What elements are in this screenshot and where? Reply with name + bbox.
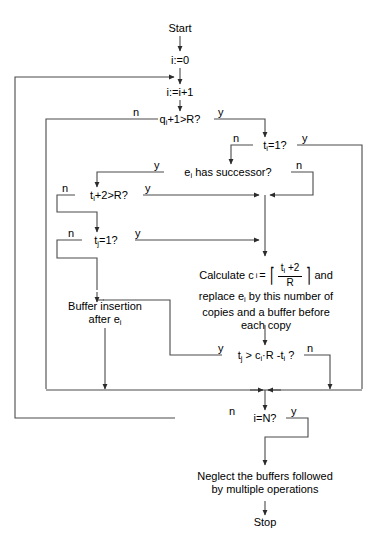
node-decision-successor: ei has successor? — [167, 166, 289, 182]
neglect-line-1: Neglect the buffers followed — [170, 470, 360, 483]
branch-d1-no: n — [133, 106, 139, 118]
edge-d2-no — [231, 145, 253, 164]
calc-line-4: each copy — [176, 319, 356, 332]
node-decision-q: qi+1>R? — [151, 113, 209, 129]
node-init: i:=0 — [160, 54, 200, 66]
calc-denominator: R — [278, 277, 303, 288]
branch-d4-no: n — [62, 182, 68, 194]
branch-d6-no: n — [307, 342, 313, 354]
branch-d3-no: n — [296, 159, 302, 171]
calc-fraction: ti +2 R — [278, 262, 303, 288]
node-decision-tj: tj=1? — [84, 234, 128, 250]
node-neglect-buffers: Neglect the buffers followed by multiple… — [170, 470, 360, 496]
calc-formula-line: Calculate ci = ⌈ ti +2 R ⌉ and — [176, 262, 356, 288]
node-stop: Stop — [245, 516, 285, 528]
flowchart-canvas: Start i:=0 i:=i+1 qi+1>R? n y ti=1? n y … — [0, 0, 378, 536]
branch-d5-yes: y — [135, 227, 141, 239]
branch-d3-yes: y — [154, 159, 160, 171]
calc-line-3: copies and a buffer before — [176, 306, 356, 319]
node-increment-label: i:=i+1 — [167, 86, 194, 98]
node-decision-tj-compare: tj > ci·R -ti ? — [228, 349, 304, 365]
edge-d3-yes — [97, 172, 164, 187]
node-calculate: Calculate ci = ⌈ ti +2 R ⌉ and replace e… — [176, 262, 356, 332]
branch-d5-no: n — [68, 227, 74, 239]
buffer-line-2: after ei — [45, 313, 165, 329]
branch-d6-yes: y — [218, 342, 224, 354]
node-decision-ti2: ti+2>R? — [78, 189, 140, 205]
edge-d1-no — [46, 119, 158, 389]
branch-d2-yes: y — [302, 132, 308, 144]
node-start: Start — [160, 22, 200, 34]
calc-numerator: ti +2 — [278, 262, 303, 277]
node-decision-ti: ti=1? — [253, 139, 297, 155]
branch-d2-no: n — [233, 132, 239, 144]
edge-d6-no — [304, 355, 330, 389]
buffer-line-1: Buffer insertion — [45, 300, 165, 313]
ceil-right-bracket: ⌉ — [306, 265, 311, 285]
branch-d1-yes: y — [218, 106, 224, 118]
neglect-line-2: by multiple operations — [170, 483, 360, 496]
branch-d7-yes: y — [291, 405, 297, 417]
branch-d4-yes: y — [145, 182, 151, 194]
node-buffer-insertion: Buffer insertion after ei — [45, 300, 165, 329]
edge-d7-yes — [265, 418, 308, 465]
node-decision-iN: i=N? — [246, 412, 284, 424]
edge-d1-yes — [214, 119, 265, 137]
calc-line-2: replace ei by this number of — [176, 290, 356, 306]
node-increment: i:=i+1 — [158, 86, 202, 98]
branch-d7-no: n — [229, 405, 235, 417]
ceil-left-bracket: ⌈ — [269, 265, 274, 285]
